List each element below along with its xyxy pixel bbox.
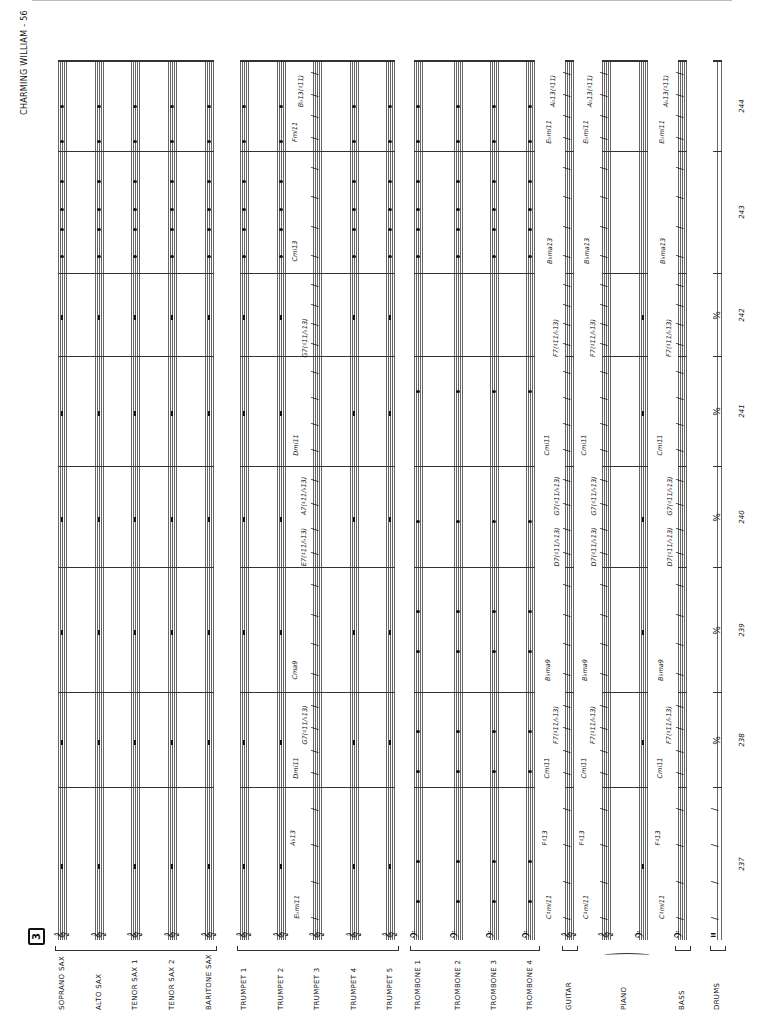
staff-line [721,60,722,940]
notehead [456,105,460,108]
chord-symbol: B♭ma13 [546,238,554,264]
notehead [416,770,420,773]
slash-notation: / [563,705,572,708]
measure-number: 241 [738,404,746,417]
slash-notation: / [311,137,320,140]
chord-symbol: F♯13 [578,831,586,846]
sax-section-bracket [55,946,217,951]
whole-rest [61,517,63,522]
staff-line [137,60,138,940]
notehead [456,770,460,773]
staff-trumpet-5 [386,60,395,940]
whole-rest [280,864,282,869]
staff-line [388,60,389,940]
slash-notation: / [676,72,685,75]
measure-repeat-icon: % [713,626,722,635]
slash-notation: / [600,94,609,97]
whole-rest [208,517,210,522]
notehead [492,180,496,183]
staff-line [133,60,134,940]
chord-symbol: Cmi11 [580,435,588,456]
slash-notation: / [563,772,572,775]
notehead [170,255,174,258]
treble-clef-icon: 𝄞 [54,931,67,939]
staff-line [139,60,140,940]
label-trumpet-2: TRUMPET 2 [277,967,285,1010]
notehead [416,730,420,733]
chord-symbol: D7(♯11/♭13) [666,527,674,566]
staff-line [211,60,212,940]
whole-rest [98,864,100,869]
whole-rest [389,411,391,416]
notehead [416,610,420,613]
slash-notation: / [600,772,609,775]
notehead [528,255,532,258]
notehead [352,180,356,183]
staff-line [64,60,65,940]
staff-line [420,60,421,940]
chord-symbol: B♭ma13 [659,238,667,264]
staff-line [460,60,461,940]
notehead [456,860,460,863]
whole-rest [171,517,173,522]
slash-notation: / [600,808,609,811]
notehead [242,105,246,108]
staff-line [458,60,459,940]
notehead [207,105,211,108]
slash-notation: / [676,552,685,555]
whole-rest [61,315,63,320]
slash-notation: / [563,137,572,140]
final-barline [58,60,214,62]
whole-rest [642,411,644,416]
staff-line [213,60,214,940]
barline [58,151,214,152]
treble-clef-icon: 𝄞 [164,931,177,939]
staff-line [58,60,59,940]
slash-notation: / [311,167,320,170]
staff-line [279,60,280,940]
whole-rest [208,864,210,869]
measure-number: 237 [738,857,746,870]
notehead [207,180,211,183]
staff-line [422,60,423,940]
staff-trumpet-1 [240,60,249,940]
notehead [133,208,137,211]
chord-symbol: F7(♯11/♭13) [665,319,673,357]
notehead [242,208,246,211]
slash-notation: / [600,115,609,118]
staff-line [103,60,104,940]
slash-notation: / [311,614,320,617]
barline [713,466,722,467]
staff-line [283,60,284,940]
staff-line [418,60,419,940]
barline [565,466,574,467]
staff-line [321,60,322,940]
slash-notation: / [676,449,685,452]
piano-brace [604,953,650,958]
slash-notation: / [600,72,609,75]
whole-rest [243,517,245,522]
notehead [60,208,64,211]
final-barline [602,60,648,62]
barline [58,356,214,357]
slash-notation: / [563,552,572,555]
staff-line [492,60,493,940]
whole-rest [642,517,644,522]
notehead [528,208,532,211]
label-trumpet-4: TRUMPET 4 [350,967,358,1010]
slash-notation: / [676,397,685,400]
notehead [456,228,460,231]
slash-notation: / [600,225,609,228]
barline [678,356,687,357]
rehearsal-mark: 3 [28,928,45,945]
slash-notation: / [600,705,609,708]
chord-symbol: G7(♯11/♭13) [666,477,674,516]
slash-notation: / [311,727,320,730]
chord-symbol: G7(♯11/♭13) [590,477,598,516]
notehead [456,730,460,733]
notehead [416,208,420,211]
staff-line [97,60,98,940]
staff-line [534,60,535,940]
staff-piano-lh [639,60,648,940]
notehead [492,208,496,211]
